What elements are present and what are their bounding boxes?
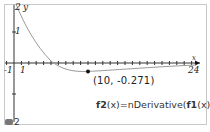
inner-function-name: f1 xyxy=(186,99,197,110)
page-number: 2 xyxy=(14,117,20,127)
y-one-label: 1 xyxy=(15,27,21,36)
point-coordinates-label[interactable]: (10, -0.271) xyxy=(93,75,155,86)
x-neg-one-label: -1 xyxy=(4,66,13,75)
trace-point[interactable] xyxy=(86,69,90,73)
inner-function-args: (x),x) xyxy=(197,99,210,110)
page-indicator[interactable]: 2 xyxy=(5,117,20,127)
graph-canvas[interactable] xyxy=(0,0,210,132)
function-definition: (x)=nDerivative( xyxy=(107,99,187,110)
function-name: f2 xyxy=(96,99,107,110)
function-label[interactable]: f2(x)=nDerivative(f1(x),x) xyxy=(96,99,210,110)
x-axis-name: x xyxy=(192,55,196,62)
x-one-label: 1 xyxy=(20,66,26,75)
x-max-label: 24 xyxy=(188,66,199,75)
y-axis-name: y xyxy=(23,3,28,12)
grab-handle-icon[interactable] xyxy=(5,119,13,125)
y-max-label: 2 xyxy=(15,3,21,12)
